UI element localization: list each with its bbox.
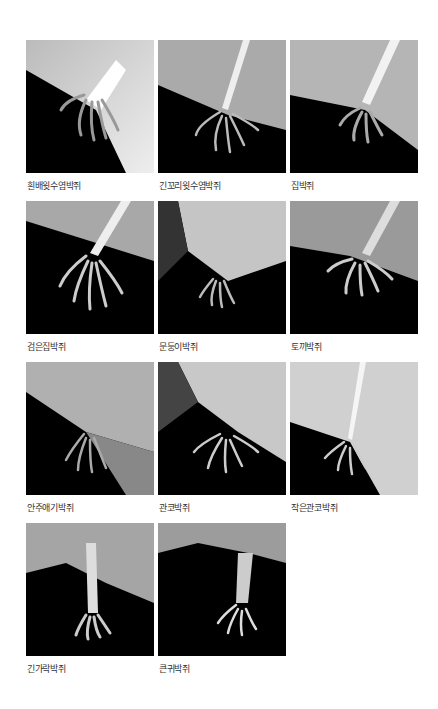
figure-cell: 작은관코박쥐 [290, 362, 418, 523]
figure-cell: 흰배윗수염박쥐 [26, 40, 154, 201]
species-caption: 긴꼬리윗수염박쥐 [158, 173, 286, 201]
bat-hindfoot-photo [26, 201, 154, 334]
bat-hindfoot-photo [290, 40, 418, 173]
figure-row-2: 검은집박쥐 문둥이박쥐 [26, 201, 418, 362]
species-caption: 토끼박쥐 [290, 334, 418, 362]
figure-cell: 관코박쥐 [158, 362, 286, 523]
species-caption: 관코박쥐 [158, 495, 286, 523]
species-caption: 안주애기박쥐 [26, 495, 154, 523]
bat-hindfoot-photo [158, 362, 286, 495]
species-caption: 검은집박쥐 [26, 334, 154, 362]
figure-cell: 큰귀박쥐 [158, 523, 286, 684]
species-caption: 흰배윗수염박쥐 [26, 173, 154, 201]
figure-row-3: 안주애기박쥐 관코박쥐 [26, 362, 418, 523]
bat-hindfoot-photo [26, 362, 154, 495]
bat-hindfoot-photo [158, 523, 286, 656]
bat-hindfoot-photo [26, 40, 154, 173]
species-caption: 큰귀박쥐 [158, 656, 286, 684]
bat-hindfoot-photo [290, 362, 418, 495]
bat-hindfoot-photo [290, 201, 418, 334]
figure-cell: 긴꼬리윗수염박쥐 [158, 40, 286, 201]
figure-row-1: 흰배윗수염박쥐 긴꼬리윗수염박쥐 [26, 40, 418, 201]
figure-cell: 집박쥐 [290, 40, 418, 201]
bat-hindfoot-photo [158, 40, 286, 173]
species-caption: 긴가락박쥐 [26, 656, 154, 684]
figure-cell: 검은집박쥐 [26, 201, 154, 362]
species-caption: 작은관코박쥐 [290, 495, 418, 523]
bat-hindfoot-photo [158, 201, 286, 334]
bat-foot-figure-grid: 흰배윗수염박쥐 긴꼬리윗수염박쥐 [26, 40, 418, 684]
species-caption: 집박쥐 [290, 173, 418, 201]
species-caption: 문둥이박쥐 [158, 334, 286, 362]
figure-cell: 긴가락박쥐 [26, 523, 154, 684]
figure-cell: 토끼박쥐 [290, 201, 418, 362]
figure-row-4: 긴가락박쥐 큰귀박쥐 [26, 523, 418, 684]
bat-hindfoot-photo [26, 523, 154, 656]
figure-cell: 문둥이박쥐 [158, 201, 286, 362]
figure-cell: 안주애기박쥐 [26, 362, 154, 523]
